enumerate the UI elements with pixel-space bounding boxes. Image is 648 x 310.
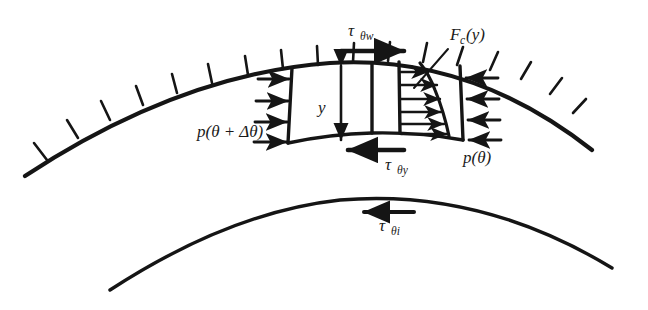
free-body-diagram-svg: τ θw F c (y) p(θ + Δθ) p(θ) y τ θy τ θi bbox=[0, 0, 648, 310]
label-tau-wall: τ θw bbox=[348, 21, 374, 42]
inner-wall-arc bbox=[110, 198, 612, 290]
label-force-profile: F c (y) bbox=[449, 25, 485, 46]
label-pressure-left: p(θ + Δθ) bbox=[196, 122, 264, 141]
label-force-subscript: c bbox=[460, 34, 465, 46]
label-tau-y-subscript: θy bbox=[397, 164, 409, 177]
wall-hatch-marks-right bbox=[490, 52, 586, 113]
label-tau-wall-subscript: θw bbox=[360, 30, 374, 42]
label-tau-inner-symbol: τ bbox=[379, 216, 386, 235]
label-tau-y-symbol: τ bbox=[385, 155, 392, 174]
label-tau-inner: τ θi bbox=[379, 216, 400, 237]
label-tau-inner-subscript: θi bbox=[391, 225, 400, 237]
figure-canvas: τ θw F c (y) p(θ + Δθ) p(θ) y τ θy τ θi bbox=[0, 0, 648, 310]
label-pressure-right: p(θ) bbox=[462, 148, 492, 167]
profile-baseline bbox=[399, 62, 400, 133]
label-force-argument: (y) bbox=[466, 25, 485, 44]
outer-wall-boundary bbox=[25, 42, 592, 176]
label-tau-y: τ θy bbox=[385, 155, 409, 177]
label-height-dimension: y bbox=[316, 98, 326, 117]
inner-boundary bbox=[110, 198, 612, 290]
label-tau-wall-symbol: τ bbox=[348, 21, 355, 40]
